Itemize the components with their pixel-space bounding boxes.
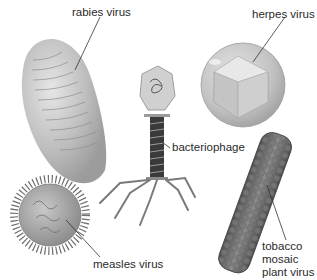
bacteriophage-label: bacteriophage [172, 141, 245, 154]
virus-diagram: rabies virus herpes virus bacteriophage … [0, 0, 317, 280]
tobacco-virus-label-line2: mosaic [262, 253, 298, 266]
measles-virus-label: measles virus [93, 258, 163, 271]
tobacco-virus-label-line3: plant virus [262, 266, 314, 279]
herpes-virus-shape [201, 17, 285, 127]
rabies-virus-shape [22, 17, 106, 183]
virus-illustration [0, 0, 317, 280]
rabies-virus-label: rabies virus [72, 6, 131, 19]
measles-virus-shape [14, 179, 100, 257]
herpes-virus-label: herpes virus [252, 8, 315, 21]
tobacco-virus-label-line1: tobacco [262, 240, 302, 253]
